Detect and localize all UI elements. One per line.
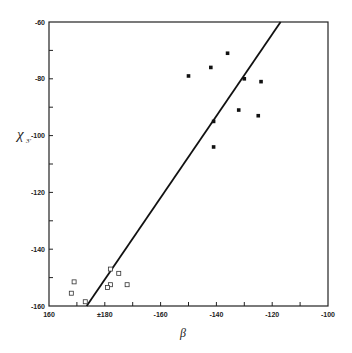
filled-square-marker <box>209 66 213 70</box>
x-tick-label: -120 <box>265 311 279 318</box>
open-square-marker <box>108 267 112 271</box>
y-axis-title: χ 3' <box>15 126 32 145</box>
x-tick-label: 160 <box>43 311 55 318</box>
filled-square-marker <box>237 108 241 112</box>
filled-square-marker <box>212 145 216 149</box>
scatter-chart: 160±180-160-140-120-100 -60-80-100-120-1… <box>0 0 352 353</box>
y-tick-label: -140 <box>31 246 45 253</box>
open-square-marker <box>72 280 76 284</box>
x-axis-title: β <box>179 326 186 340</box>
open-square-marker <box>69 291 73 295</box>
y-tick-label: -100 <box>31 132 45 139</box>
y-axis-title-main: χ <box>15 126 24 142</box>
y-tick-label: -60 <box>35 19 45 26</box>
filled-square-marker <box>212 120 216 124</box>
fit-line <box>87 22 281 306</box>
y-axis-title-sub: 3' <box>25 137 32 145</box>
plot-frame <box>49 22 328 306</box>
x-tick-label: -140 <box>209 311 223 318</box>
open-square-marker <box>83 300 87 304</box>
open-square-marker <box>125 283 129 287</box>
y-axis-ticks: -60-80-100-120-140-160 <box>31 19 53 310</box>
filled-square-marker <box>256 114 260 118</box>
filled-square-marker <box>259 80 263 84</box>
y-tick-label: -160 <box>31 303 45 310</box>
y-tick-label: -120 <box>31 189 45 196</box>
open-square-marker <box>117 271 121 275</box>
x-tick-label: ±180 <box>97 311 113 318</box>
open-square-marker <box>106 286 110 290</box>
y-tick-label: -80 <box>35 75 45 82</box>
filled-square-marker <box>243 77 247 81</box>
regression-line <box>87 22 281 306</box>
x-tick-label: -160 <box>154 311 168 318</box>
filled-square-marker <box>226 51 230 55</box>
filled-square-marker <box>187 74 191 78</box>
x-tick-label: -100 <box>321 311 335 318</box>
